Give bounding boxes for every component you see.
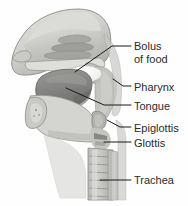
label-epiglottis: Epiglottis [134,122,179,135]
label-pharynx-text: Pharynx [134,81,174,93]
label-bolus-line1: Bolus [134,40,162,52]
label-glottis-text: Glottis [134,137,165,149]
label-trachea-text: Trachea [134,174,174,186]
glottis [90,128,110,150]
label-bolus-of-food: Bolus of food [134,40,168,65]
label-pharynx: Pharynx [134,81,174,94]
label-glottis: Glottis [134,137,165,150]
anatomy-figure: Bolus of food Pharynx Tongue Epiglottis … [0,0,188,206]
label-tongue-text: Tongue [134,100,170,112]
label-epiglottis-text: Epiglottis [134,122,179,134]
mandible-and-chin [25,95,96,198]
label-tongue: Tongue [134,100,170,113]
label-bolus-line2: of food [134,53,168,66]
label-trachea: Trachea [134,174,174,187]
